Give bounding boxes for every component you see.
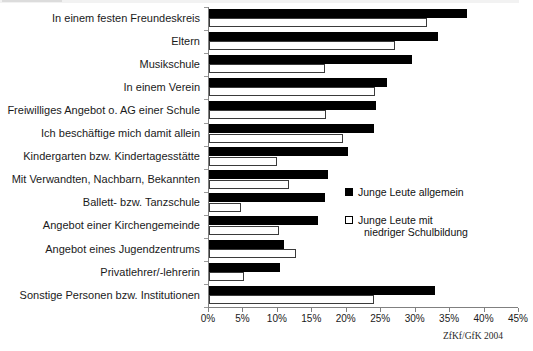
- chart-row: Privatlehrer/-lehrerin: [0, 261, 519, 284]
- bar-series-niedriger-schulbildung: [209, 41, 395, 50]
- category-label: Freiwilliges Angebot o. AG einer Schule: [0, 104, 200, 117]
- bar-series-niedriger-schulbildung: [209, 295, 374, 304]
- x-axis-tick-label: 45%: [498, 313, 533, 325]
- category-label: In einem festen Freundeskreis: [0, 12, 200, 25]
- x-axis-tick: [415, 308, 416, 312]
- chart-row: Freiwilliges Angebot o. AG einer Schule: [0, 99, 519, 122]
- x-axis-tick: [277, 308, 278, 312]
- bar-series-allgemein: [209, 147, 348, 156]
- category-label: Mit Verwandten, Nachbarn, Bekannten: [0, 173, 200, 186]
- bar-series-allgemein: [209, 9, 467, 18]
- bar-series-allgemein: [209, 32, 438, 41]
- category-label: Musikschule: [0, 58, 200, 71]
- bar-series-niedriger-schulbildung: [209, 64, 325, 73]
- chart-row: Ich beschäftige mich damit allein: [0, 123, 519, 146]
- category-label: In einem Verein: [0, 81, 200, 94]
- bar-series-allgemein: [209, 286, 435, 295]
- x-axis-tick: [449, 308, 450, 312]
- chart-row: Kindergarten bzw. Kindertagesstätte: [0, 146, 519, 169]
- bar-series-allgemein: [209, 240, 284, 249]
- chart-row: In einem Verein: [0, 76, 519, 99]
- x-axis-tick: [208, 308, 209, 312]
- bar-series-niedriger-schulbildung: [209, 87, 375, 96]
- legend-label-2-line2: niedriger Schulbildung: [358, 226, 468, 238]
- x-axis-tick: [518, 308, 519, 312]
- bar-series-allgemein: [209, 263, 280, 272]
- legend-label-1: Junge Leute allgemein: [358, 186, 464, 198]
- legend-swatch-filled-icon: [345, 188, 353, 196]
- bar-series-niedriger-schulbildung: [209, 249, 296, 258]
- top-edge-artifact: [0, 0, 519, 3]
- x-axis-tick: [484, 308, 485, 312]
- legend-swatch-outline-icon: [345, 216, 353, 224]
- bar-series-allgemein: [209, 193, 325, 202]
- category-label: Ballett- bzw. Tanzschule: [0, 196, 200, 209]
- source-attribution: ZfKf/GfK 2004: [443, 331, 503, 342]
- bar-series-niedriger-schulbildung: [209, 180, 289, 189]
- x-axis-tick: [311, 308, 312, 312]
- chart-row: In einem festen Freundeskreis: [0, 7, 519, 30]
- bar-series-allgemein: [209, 216, 318, 225]
- x-axis-tick: [380, 308, 381, 312]
- category-label: Sonstige Personen bzw. Institutionen: [0, 289, 200, 302]
- bar-series-allgemein: [209, 55, 412, 64]
- bar-series-niedriger-schulbildung: [209, 226, 279, 235]
- bar-series-niedriger-schulbildung: [209, 203, 241, 212]
- chart-row: Musikschule: [0, 53, 519, 76]
- legend-item-niedriger-schulbildung: Junge Leute mit niedriger Schulbildung: [345, 214, 468, 238]
- bar-series-allgemein: [209, 170, 328, 179]
- y-axis-tick: [204, 307, 208, 308]
- category-label: Eltern: [0, 35, 200, 48]
- category-label: Ich beschäftige mich damit allein: [0, 127, 200, 140]
- x-axis-tick: [346, 308, 347, 312]
- bar-series-niedriger-schulbildung: [209, 157, 277, 166]
- chart-row: Eltern: [0, 30, 519, 53]
- bar-series-allgemein: [209, 78, 387, 87]
- legend-item-junge-leute-allgemein: Junge Leute allgemein: [345, 186, 468, 198]
- category-label: Kindergarten bzw. Kindertagesstätte: [0, 150, 200, 163]
- chart-row: Sonstige Personen bzw. Institutionen: [0, 284, 519, 307]
- bar-series-allgemein: [209, 101, 376, 110]
- top-edge-artifact-left: [2, 0, 62, 2]
- bar-series-allgemein: [209, 124, 374, 133]
- legend-label-2: Junge Leute mit: [358, 214, 433, 226]
- bar-series-niedriger-schulbildung: [209, 18, 427, 27]
- bar-series-niedriger-schulbildung: [209, 272, 244, 281]
- bar-series-niedriger-schulbildung: [209, 134, 343, 143]
- x-axis-tick: [242, 308, 243, 312]
- chart-legend: Junge Leute allgemein Junge Leute mit ni…: [345, 186, 468, 254]
- category-label: Angebot einer Kirchengemeinde: [0, 219, 200, 232]
- category-label: Angebot eines Jugendzentrums: [0, 243, 200, 256]
- bar-series-niedriger-schulbildung: [209, 110, 326, 119]
- category-label: Privatlehrer/-lehrerin: [0, 266, 200, 279]
